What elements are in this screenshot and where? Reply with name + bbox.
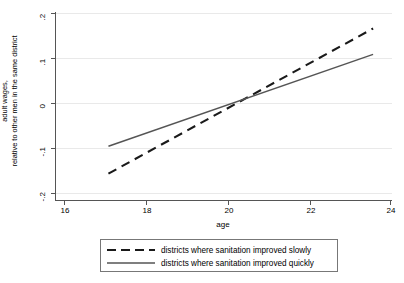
legend-entry-slowly: districts where sanitation improved slow… xyxy=(107,243,311,257)
y-tick-label-0: 0 xyxy=(38,99,47,109)
y-tick-marks xyxy=(51,14,56,194)
x-axis-title: age xyxy=(193,220,253,229)
data-series-layer xyxy=(108,28,373,173)
x-tick-marks xyxy=(65,201,391,206)
x-tick-label-18: 18 xyxy=(136,206,158,215)
y-tick-label--0.1: -.1 xyxy=(38,141,47,157)
legend-label-quickly: districts where sanitation improved quic… xyxy=(161,259,314,268)
grid-lines xyxy=(56,14,393,194)
solid-line-key xyxy=(107,258,155,268)
dashed-line-key xyxy=(107,245,155,255)
y-tick-label-0.2: .2 xyxy=(38,7,47,21)
x-tick-label-20: 20 xyxy=(218,206,240,215)
y-tick-label--0.2: -.2 xyxy=(38,186,47,202)
x-tick-label-16: 16 xyxy=(54,206,76,215)
series-line-quickly xyxy=(108,54,373,146)
legend-label-slowly: districts where sanitation improved slow… xyxy=(161,246,311,255)
legend: districts where sanitation improved slow… xyxy=(100,239,338,272)
legend-entry-quickly: districts where sanitation improved quic… xyxy=(107,256,314,270)
x-tick-label-24: 24 xyxy=(380,206,402,215)
y-tick-label-0.1: .1 xyxy=(38,52,47,66)
chart-figure: adult wages, relative to other men in th… xyxy=(0,0,404,283)
x-tick-label-22: 22 xyxy=(300,206,322,215)
